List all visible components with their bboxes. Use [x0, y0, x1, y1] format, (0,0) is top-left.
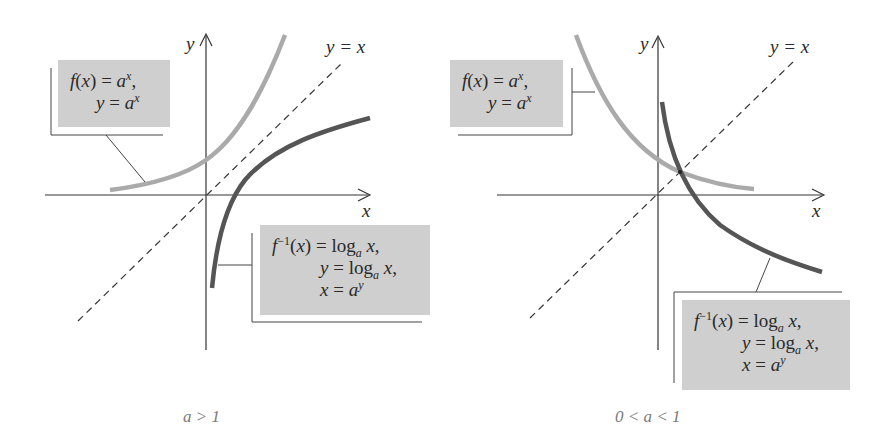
x-axis-label-left: x: [362, 200, 370, 222]
exp-label-line1-right: f(x) = ax,: [450, 60, 563, 92]
intersection-point-right: [678, 170, 682, 174]
exp-label-line1-left: f(x) = ax,: [58, 60, 170, 92]
identity-label-right: y = x: [770, 36, 809, 58]
exp-function-label-left: f(x) = ax, y = ax: [58, 60, 170, 127]
exp-label-line2-right: y = ax: [450, 92, 563, 114]
exp-leader-left: [106, 135, 145, 182]
log-label-line2-left: y = loga x,: [260, 257, 430, 279]
identity-label-left: y = x: [326, 36, 365, 58]
y-axis-label-left: y: [186, 33, 194, 55]
log-function-label-left: f−1(x) = loga x, y = loga x, x = ay: [260, 225, 430, 315]
log-label-line3-right: x = ay: [682, 354, 850, 376]
log-leader-right: [756, 258, 770, 292]
log-label-line1-right: f−1(x) = loga x,: [682, 300, 850, 332]
identity-line-right: [530, 60, 795, 318]
exp-label-line2-left: y = ax: [58, 92, 170, 114]
log-label-line1-left: f−1(x) = loga x,: [260, 225, 430, 257]
y-axis-label-right: y: [640, 33, 648, 55]
x-axis-label-right: x: [812, 200, 820, 222]
caption-left: a > 1: [183, 407, 220, 427]
log-label-line3-left: x = ay: [260, 279, 430, 301]
log-label-line2-right: y = loga x,: [682, 332, 850, 354]
exp-function-label-right: f(x) = ax, y = ax: [450, 60, 563, 127]
caption-right: 0 < a < 1: [615, 407, 680, 427]
log-function-label-right: f−1(x) = loga x, y = loga x, x = ay: [682, 300, 850, 390]
